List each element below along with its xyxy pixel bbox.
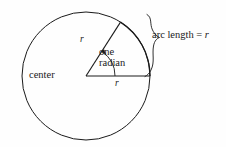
label-radius-slant: r bbox=[80, 35, 84, 45]
label-arc-length-variable: r bbox=[205, 29, 209, 40]
label-one-radian-line2: radian bbox=[99, 57, 125, 68]
label-one-radian-line1: one bbox=[99, 46, 125, 57]
brace-icon bbox=[145, 15, 160, 77]
label-radius-horizontal: r bbox=[115, 79, 119, 89]
label-arc-length-text: arc length = bbox=[152, 29, 202, 40]
label-one-radian: one radian bbox=[99, 46, 125, 68]
radian-diagram: center one radian r r arc length = r bbox=[0, 0, 226, 147]
label-center: center bbox=[29, 69, 55, 80]
label-arc-length: arc length = r bbox=[152, 29, 209, 40]
